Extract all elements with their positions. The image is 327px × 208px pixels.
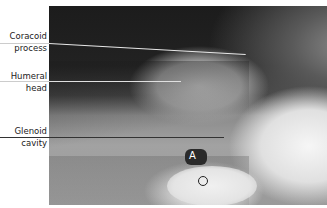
marker-o-circle [198, 176, 208, 186]
pointer-line-glenoid [0, 137, 224, 138]
pointer-line-humeral-lead [0, 81, 49, 82]
pointer-line-coracoid-lead [0, 43, 49, 44]
glenoid-bright-region [167, 166, 257, 205]
label-line2: head [11, 82, 47, 94]
marker-a: A [189, 150, 196, 162]
label-humeral-head: Humeral head [11, 70, 47, 94]
label-line2: cavity [14, 137, 47, 149]
shoulder-xray-image: A [49, 6, 327, 205]
label-line1: Glenoid [14, 125, 47, 137]
pointer-line-humeral [49, 81, 181, 82]
label-line1: Coracoid [10, 30, 47, 42]
label-coracoid-process: Coracoid process [10, 30, 47, 54]
